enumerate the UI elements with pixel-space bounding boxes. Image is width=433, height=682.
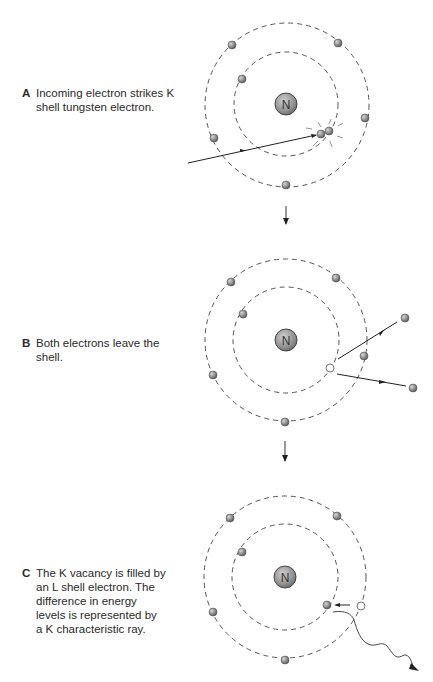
atom-b: N — [205, 259, 417, 426]
caption-c: CThe K vacancy is filled by an L shell e… — [22, 566, 166, 636]
electrons — [209, 274, 417, 426]
caption-a: AIncoming electron strikes K shell tungs… — [22, 86, 174, 114]
caption-letter: B — [22, 336, 36, 350]
atom-c: N — [204, 496, 419, 671]
caption-b: BBoth electrons leave the shell. — [22, 336, 159, 364]
k-shell-vacancy — [326, 364, 334, 372]
k-characteristic-ray — [333, 611, 413, 666]
nucleus-label: N — [282, 98, 291, 112]
incoming-electron-path — [188, 135, 316, 163]
ejected-electron-path-1 — [338, 322, 397, 359]
atom-a: N — [188, 23, 369, 189]
arrowhead — [240, 149, 246, 152]
nucleus-label: N — [282, 334, 291, 348]
caption-letter: C — [22, 566, 36, 580]
electrons — [209, 512, 341, 664]
caption-letter: A — [22, 86, 36, 100]
l-shell-vacancy — [357, 602, 365, 610]
ejected-electron-path-2 — [337, 374, 406, 386]
nucleus-label: N — [281, 571, 290, 585]
